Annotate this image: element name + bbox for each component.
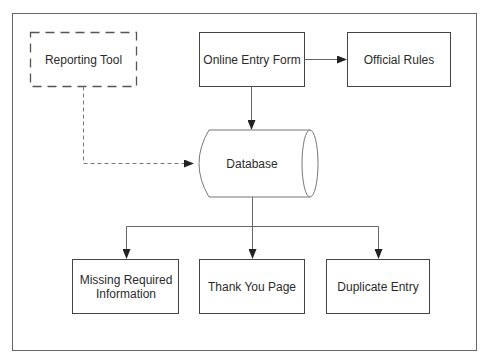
reporting-tool-label: Reporting Tool [30,32,137,87]
online-entry-form-label: Online Entry Form [199,32,305,87]
missing-info-label: Missing Required Information [78,259,174,314]
thank-you-label: Thank You Page [199,259,305,314]
diagram-canvas: Reporting Tool Online Entry Form Officia… [0,0,486,352]
database-label: Database [199,130,305,197]
duplicate-entry-label: Duplicate Entry [326,259,430,314]
edge-reporting-to-database [84,87,194,164]
official-rules-label: Official Rules [347,32,451,87]
